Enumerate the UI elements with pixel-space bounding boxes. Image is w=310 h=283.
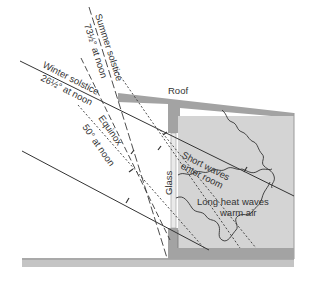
glass-label: Glass [163,170,174,195]
roof-label: Roof [168,85,188,96]
floor [168,248,294,259]
long-waves-label: Long heat waves [197,196,269,207]
long-waves-label-2: warm air [219,207,256,218]
solar-angle-diagram: Summer solstice 73½° at noon Winter sols… [0,0,310,283]
room [178,116,294,248]
